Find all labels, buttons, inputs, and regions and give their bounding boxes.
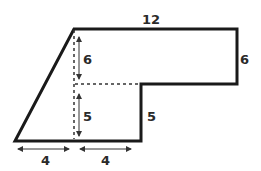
label-bottom-left-width: 4 <box>41 153 50 168</box>
label-inner-upper-height: 6 <box>83 52 92 67</box>
shape-outline <box>15 29 237 141</box>
label-step-height: 5 <box>147 109 156 124</box>
label-inner-lower-height: 5 <box>83 109 92 124</box>
label-right-height: 6 <box>240 52 249 67</box>
label-top-width: 12 <box>142 12 160 27</box>
geometry-figure: 12 6 6 5 5 4 4 <box>0 0 261 171</box>
label-bottom-right-width: 4 <box>101 153 110 168</box>
